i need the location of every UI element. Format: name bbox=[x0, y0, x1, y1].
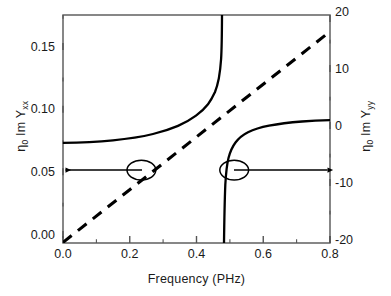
x-tick-label-4: 0.8 bbox=[308, 247, 352, 261]
y-left-tick-label-3: 0.15 bbox=[15, 40, 55, 54]
y-right-tick-label-4: 20 bbox=[335, 5, 375, 19]
eta-subscript-left: 0 bbox=[20, 140, 30, 145]
im-y-left: Im Y bbox=[14, 110, 28, 140]
x-tick-label-3: 0.6 bbox=[241, 247, 285, 261]
series-yxx-upper-branch bbox=[63, 15, 222, 143]
y-right-tick-label-0: -20 bbox=[335, 233, 375, 247]
eta-symbol-right: η bbox=[359, 145, 373, 152]
series-dashed-linear bbox=[63, 32, 330, 243]
x-axis-title: Frequency (PHz) bbox=[63, 272, 330, 286]
y-axis-left-title: η0 Im Yxx bbox=[14, 66, 31, 186]
y-subscript-right: yy bbox=[365, 101, 375, 110]
y-axis-right-title: η0 Im Yyy bbox=[359, 66, 376, 186]
chart-figure: 0.00 0.05 0.10 0.15 -20 -10 0 10 20 0.0 … bbox=[0, 0, 391, 296]
y-left-tick-label-0: 0.00 bbox=[15, 228, 55, 242]
x-axis-ticks bbox=[63, 236, 330, 243]
eta-symbol-left: η bbox=[14, 145, 28, 152]
y-subscript-left: xx bbox=[20, 101, 30, 110]
im-y-right: Im Y bbox=[359, 110, 373, 140]
x-tick-label-1: 0.2 bbox=[108, 247, 152, 261]
series-yyy-lower-branch bbox=[224, 120, 330, 243]
eta-subscript-right: 0 bbox=[365, 140, 375, 145]
x-tick-label-2: 0.4 bbox=[175, 247, 219, 261]
x-tick-label-0: 0.0 bbox=[41, 247, 85, 261]
plot-frame bbox=[63, 15, 330, 243]
